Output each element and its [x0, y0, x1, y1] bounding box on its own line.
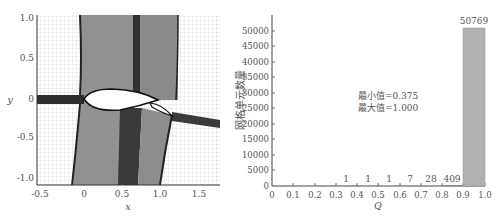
svg-text:35000: 35000	[242, 72, 269, 82]
svg-text:-0.5: -0.5	[17, 132, 35, 142]
svg-text:45000: 45000	[242, 41, 269, 51]
bar-0.8-0.9	[442, 185, 463, 186]
mesh-x-label: x	[125, 201, 131, 212]
svg-text:0.1: 0.1	[286, 190, 300, 200]
svg-text:-1.0: -1.0	[17, 173, 35, 183]
svg-text:28: 28	[425, 174, 437, 184]
mesh-y-label: y	[6, 94, 13, 105]
max-value-label: 最大值=1.000	[358, 102, 419, 113]
svg-text:0.3: 0.3	[329, 190, 343, 200]
histogram-x-ticks: 0 0.1 0.2 0.3 0.4 0.5 0.6 0.7 0.8 0.9 1.…	[269, 190, 491, 200]
mesh-x-ticks: -0.5 0 0.5 1.0 1.5	[31, 189, 206, 199]
svg-text:0.6: 0.6	[393, 190, 407, 200]
svg-text:10000: 10000	[242, 150, 269, 160]
svg-text:1.0: 1.0	[478, 190, 492, 200]
svg-text:50769: 50769	[460, 16, 489, 26]
svg-text:15000: 15000	[242, 134, 269, 144]
svg-text:0.5: 0.5	[115, 189, 130, 199]
svg-text:0.9: 0.9	[456, 190, 470, 200]
svg-text:5000: 5000	[247, 165, 269, 175]
svg-text:0: 0	[264, 181, 269, 191]
svg-text:0.5: 0.5	[371, 190, 385, 200]
svg-text:1: 1	[343, 174, 349, 184]
svg-text:7: 7	[407, 174, 413, 184]
svg-text:0.4: 0.4	[350, 190, 364, 200]
histogram-y-ticks: 0 5000 10000 15000 20000 25000 30000 350…	[242, 26, 269, 191]
svg-text:0.7: 0.7	[414, 190, 428, 200]
svg-text:409: 409	[443, 174, 460, 184]
svg-text:0: 0	[28, 94, 34, 104]
svg-text:1: 1	[365, 174, 371, 184]
svg-text:0.5: 0.5	[20, 53, 35, 63]
mesh-area	[37, 15, 220, 185]
min-value-label: 最小值=0.375	[358, 90, 419, 101]
svg-text:-0.5: -0.5	[31, 189, 49, 199]
svg-text:0: 0	[269, 190, 274, 200]
svg-text:1: 1	[386, 174, 392, 184]
quality-histogram: 网格单元数量 0 5000 10000 15000 20000 25000 30…	[230, 0, 497, 217]
histogram-annotation: 最小值=0.375 最大值=1.000	[358, 90, 419, 113]
histogram-bars	[442, 28, 485, 186]
svg-text:50000: 50000	[242, 26, 269, 36]
svg-text:1.5: 1.5	[192, 189, 207, 199]
svg-text:20000: 20000	[242, 119, 269, 129]
mesh-y-ticks: 1.0 0.5 0 -0.5 -1.0	[17, 13, 35, 183]
mesh-plot: 1.0 0.5 0 -0.5 -1.0 -0.5 0 0.5 1.0 1.5 x…	[0, 0, 250, 217]
svg-text:0: 0	[81, 189, 87, 199]
svg-text:30000: 30000	[242, 88, 269, 98]
svg-text:1.0: 1.0	[20, 13, 35, 23]
svg-text:25000: 25000	[242, 103, 269, 113]
histogram-x-label: Q	[374, 200, 382, 211]
svg-text:40000: 40000	[242, 57, 269, 67]
svg-text:0.8: 0.8	[435, 190, 449, 200]
svg-text:0.2: 0.2	[308, 190, 322, 200]
mesh-plot-svg: 1.0 0.5 0 -0.5 -1.0 -0.5 0 0.5 1.0 1.5 x…	[0, 0, 250, 217]
histogram-svg: 网格单元数量 0 5000 10000 15000 20000 25000 30…	[230, 0, 497, 217]
bar-0.9-1.0	[463, 28, 485, 186]
svg-text:1.0: 1.0	[153, 189, 168, 199]
